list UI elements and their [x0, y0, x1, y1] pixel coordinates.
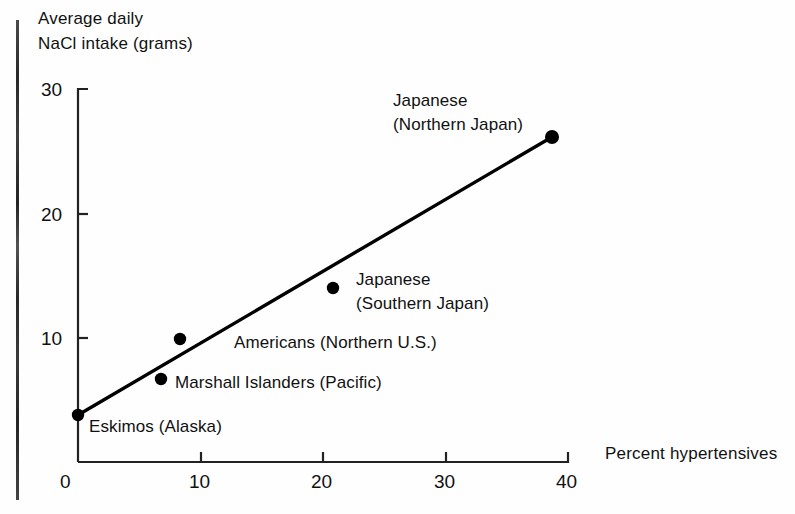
- x-tick-label-10: 10: [189, 470, 210, 494]
- label-marshall-islanders: Marshall Islanders (Pacific): [175, 372, 382, 394]
- label-americans: Americans (Northern U.S.): [234, 332, 437, 354]
- data-point-americans[interactable]: [174, 333, 186, 345]
- y-tick-label-10: 10: [41, 327, 62, 351]
- chart-figure: Average daily NaCl intake (grams) 30 20 …: [0, 0, 795, 514]
- label-japanese-southern-line1: Japanese: [356, 269, 431, 291]
- y-axis-line: [78, 89, 88, 462]
- y-axis-title-line2: NaCl intake (grams): [38, 33, 193, 55]
- x-tick-label-20: 20: [311, 470, 332, 494]
- label-japanese-northern-line2: (Northern Japan): [393, 114, 523, 136]
- data-point-japanese-southern[interactable]: [327, 282, 339, 294]
- data-point-marshall-islanders[interactable]: [155, 373, 167, 385]
- y-axis-title-line1: Average daily: [38, 8, 143, 30]
- label-japanese-northern-line1: Japanese: [393, 90, 468, 112]
- label-eskimos: Eskimos (Alaska): [89, 416, 222, 438]
- x-tick-label-30: 30: [434, 470, 455, 494]
- y-tick-label-30: 30: [41, 78, 62, 102]
- x-tick-label-40: 40: [556, 470, 577, 494]
- y-tick-label-20: 20: [41, 203, 62, 227]
- x-axis-title: Percent hypertensives: [605, 443, 777, 465]
- data-point-eskimos[interactable]: [72, 409, 84, 421]
- x-tick-label-0: 0: [60, 470, 71, 494]
- label-japanese-southern-line2: (Southern Japan): [356, 293, 489, 315]
- data-point-japanese-northern[interactable]: [545, 130, 559, 144]
